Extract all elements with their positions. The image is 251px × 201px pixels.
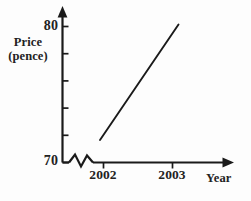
y-tick-label-70: 70 xyxy=(36,153,58,168)
y-tick-label-80: 80 xyxy=(36,18,58,33)
y-axis-title: Price (pence) xyxy=(2,36,54,63)
price-year-line-chart: Price (pence) 80 70 2002 2003 Year xyxy=(0,0,251,201)
y-axis-title-line1: Price xyxy=(14,35,42,49)
x-axis-title: Year xyxy=(206,172,248,186)
x-tick-label-2002: 2002 xyxy=(82,168,124,183)
x-tick-label-2003: 2003 xyxy=(151,168,193,183)
y-axis-title-line2: (pence) xyxy=(2,50,54,64)
